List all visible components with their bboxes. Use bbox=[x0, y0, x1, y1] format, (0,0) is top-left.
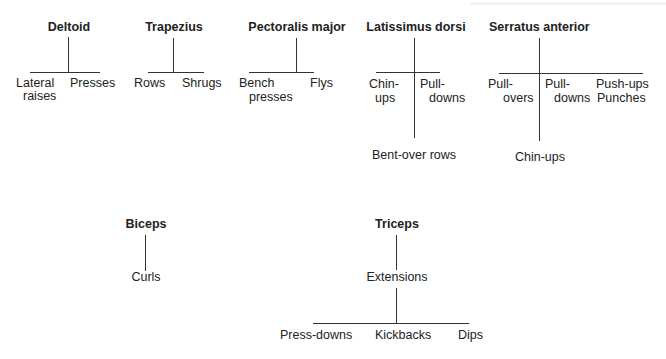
exercise-label: Press-downs bbox=[280, 328, 352, 342]
connector-line bbox=[145, 235, 146, 271]
latissimus-dorsi-title: Latissimus dorsi bbox=[366, 20, 465, 34]
exercise-label: downs bbox=[554, 91, 590, 105]
connector-line bbox=[313, 323, 469, 324]
connector-line bbox=[396, 235, 397, 270]
trapezius-title: Trapezius bbox=[145, 20, 203, 34]
connector-line bbox=[539, 38, 540, 141]
connector-line bbox=[296, 38, 297, 73]
exercise-label: Presses bbox=[70, 76, 115, 90]
exercise-label: Flys bbox=[310, 76, 333, 90]
connector-line bbox=[249, 72, 314, 73]
exercise-label: Extensions bbox=[366, 270, 427, 284]
exercise-label: Rows bbox=[134, 76, 165, 90]
connector-line bbox=[414, 38, 415, 138]
exercise-label: Punches bbox=[597, 91, 646, 105]
exercise-label: ups bbox=[375, 91, 395, 105]
connector-line bbox=[68, 37, 69, 73]
exercise-label: Chin-ups bbox=[515, 150, 565, 164]
exercise-label: Dips bbox=[458, 328, 483, 342]
connector-line bbox=[376, 72, 440, 73]
exercise-label: Pull- bbox=[420, 77, 445, 91]
connector-line bbox=[499, 73, 643, 74]
pectoralis-major-title: Pectoralis major bbox=[248, 20, 345, 34]
running-header bbox=[470, 0, 666, 5]
exercise-label: Pull- bbox=[488, 77, 513, 91]
connector-line bbox=[173, 38, 174, 73]
deltoid-title: Deltoid bbox=[48, 20, 90, 34]
exercise-label: Push-ups bbox=[596, 77, 649, 91]
exercise-label: raises bbox=[23, 89, 56, 103]
exercise-label: Lateral bbox=[16, 76, 54, 90]
exercise-label: Shrugs bbox=[182, 76, 222, 90]
exercise-label: Kickbacks bbox=[375, 328, 431, 342]
exercise-label: Curls bbox=[131, 270, 160, 284]
exercise-label: presses bbox=[249, 90, 293, 104]
serratus-anterior-title: Serratus anterior bbox=[489, 20, 590, 34]
exercise-label: overs bbox=[503, 91, 534, 105]
connector-line bbox=[396, 288, 397, 324]
triceps-title: Triceps bbox=[375, 217, 419, 231]
connector-line bbox=[30, 72, 100, 73]
exercise-label: Bench bbox=[239, 76, 274, 90]
biceps-title: Biceps bbox=[126, 217, 167, 231]
connector-line bbox=[148, 72, 204, 73]
exercise-label: Bent-over rows bbox=[372, 148, 456, 162]
exercise-label: Pull- bbox=[545, 77, 570, 91]
exercise-label: Chin- bbox=[369, 77, 399, 91]
exercise-label: downs bbox=[429, 91, 465, 105]
